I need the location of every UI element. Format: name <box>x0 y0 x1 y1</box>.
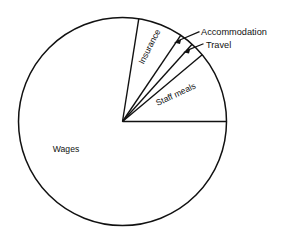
slice-label-accommodation: Accommodation <box>201 27 267 37</box>
slice-label-travel: Travel <box>206 40 231 50</box>
pie-chart-svg: Wages Insurance Staff meals Accommodatio… <box>0 0 292 245</box>
slice-label-wages: Wages <box>53 144 79 154</box>
pie-chart-figure: Wages Insurance Staff meals Accommodatio… <box>0 0 292 245</box>
